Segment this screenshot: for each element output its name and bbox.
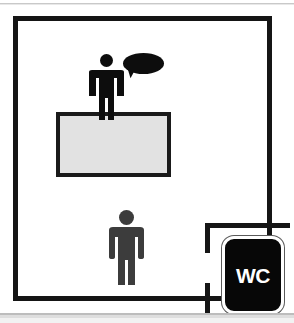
person-head-customer [119,210,134,225]
wc-sign-label: WC [236,265,270,286]
bottom-scan-band-fade [0,318,294,323]
main-room-wall: WC [13,16,272,301]
speech-bubble-icon [123,53,164,74]
person-body-customer [103,227,150,285]
top-scan-band-soft [0,4,294,5]
wc-sign: WC [222,236,284,314]
wc-wall-left-upper [205,223,210,253]
person-head-staff [100,54,113,67]
floor-plan-scene: WC [0,0,294,323]
person-figure-customer [103,210,155,288]
person-body-staff [84,70,129,120]
wc-wall-top [205,223,290,228]
speech-bubble-balloon [123,53,164,74]
wc-room: WC [201,223,290,322]
